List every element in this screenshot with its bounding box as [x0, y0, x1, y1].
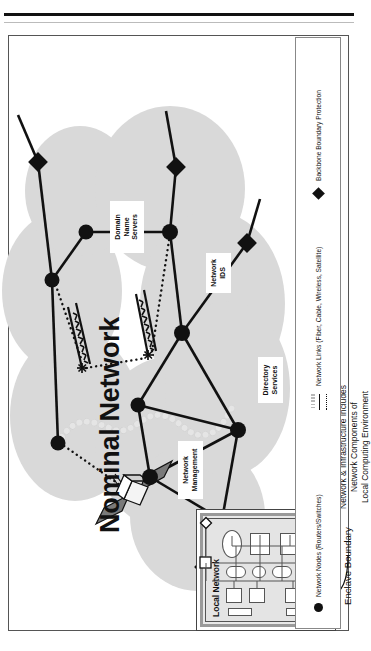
label-network-ids: Network IDS	[206, 253, 231, 293]
dotted-line-sample	[326, 394, 327, 410]
network-node[interactable]	[174, 325, 190, 341]
network-node[interactable]	[45, 273, 60, 288]
network-node[interactable]	[162, 224, 178, 240]
network-node[interactable]	[230, 422, 246, 438]
fiber-run-shadow	[62, 405, 234, 437]
legend-label-boundary: Backbone Boundary Protection	[315, 90, 322, 181]
legend-label-nodes: Network Nodes (Routers/Switches)	[315, 494, 322, 597]
filled-diamond-icon	[312, 187, 325, 200]
network-node[interactable]	[51, 436, 66, 451]
enclave-description: Network & Infrastructure Includes Networ…	[338, 347, 371, 547]
boundary-protection-node[interactable]	[28, 152, 48, 172]
antenna-tower-icon	[68, 303, 90, 373]
network-node[interactable]	[142, 469, 158, 485]
white-dotted-line-sample	[311, 394, 315, 410]
antenna-tower-icon	[136, 290, 156, 360]
boundary-protection-node[interactable]	[237, 233, 257, 253]
label-directory-services: Directory Services	[258, 357, 283, 403]
gateway-device	[201, 518, 212, 529]
boundary-protection-node[interactable]	[166, 157, 186, 177]
page-title: Nominal Network	[95, 317, 126, 533]
solid-line-sample	[319, 394, 321, 410]
network-node[interactable]	[131, 398, 146, 413]
label-network-management: Network Management	[178, 441, 203, 499]
network-node[interactable]	[79, 225, 94, 240]
filled-circle-icon	[314, 603, 323, 612]
legend-label-links: Network Links (Fiber, Cable, Wireless, S…	[315, 247, 322, 386]
label-domain-name-servers: Domain Name Servers	[110, 201, 144, 253]
legend-panel: Network Nodes (Routers/Switches) Network…	[295, 37, 341, 629]
